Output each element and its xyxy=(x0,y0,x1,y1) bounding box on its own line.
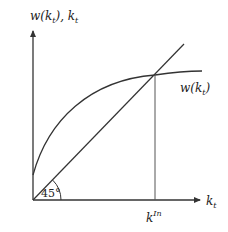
y-axis-label: w(kt), kt xyxy=(30,9,79,25)
intersection-label: kIn xyxy=(146,209,162,225)
wage-curve xyxy=(33,71,202,175)
x-axis-label: kt xyxy=(206,194,217,210)
forty-five-degree-line xyxy=(33,44,184,200)
angle-label: 45° xyxy=(41,187,61,200)
curve-label: w(kt) xyxy=(180,81,210,97)
diagram-canvas: w(kt), kt kt w(kt) kIn 45° xyxy=(0,0,228,232)
